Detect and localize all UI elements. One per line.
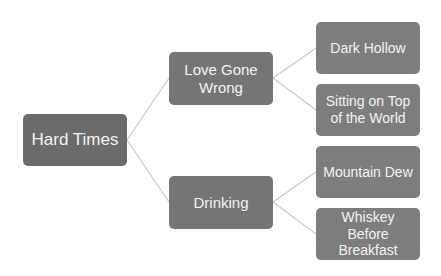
connector-drinking-to-whiskey [273, 202, 316, 234]
node-hard-times: Hard Times [23, 114, 127, 166]
node-label: Drinking [193, 194, 248, 212]
node-label: Dark Hollow [330, 40, 405, 57]
node-dark-hollow: Dark Hollow [316, 22, 420, 74]
connector-drinking-to-mountain-dew [273, 172, 316, 202]
node-drinking: Drinking [169, 176, 273, 229]
node-label: Love Gone Wrong [173, 61, 269, 97]
node-label: Hard Times [32, 130, 119, 150]
node-label: Whiskey Before Breakfast [320, 209, 416, 259]
node-label: Mountain Dew [323, 164, 413, 181]
node-label: Sitting on Top of the World [320, 93, 416, 127]
hierarchy-diagram: Hard Times Love Gone Wrong Drinking Dark… [0, 0, 441, 276]
node-whiskey-before-breakfast: Whiskey Before Breakfast [316, 208, 420, 260]
node-love-gone-wrong: Love Gone Wrong [169, 52, 273, 105]
node-sitting-on-top-of-the-world: Sitting on Top of the World [316, 84, 420, 136]
node-mountain-dew: Mountain Dew [316, 146, 420, 198]
connector-love-to-sitting [273, 78, 316, 110]
connector-root-to-love [127, 78, 169, 140]
connector-root-to-drinking [127, 140, 169, 202]
connector-love-to-dark-hollow [273, 48, 316, 78]
